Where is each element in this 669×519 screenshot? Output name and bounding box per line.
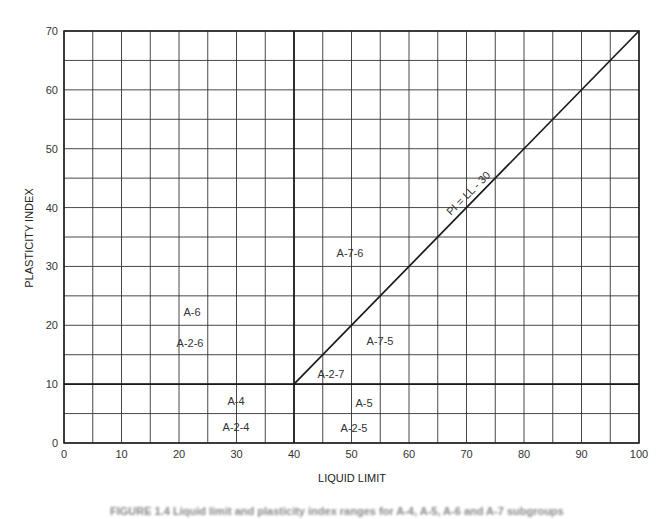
x-tick-label: 70: [460, 448, 472, 460]
y-tick-label: 30: [46, 260, 58, 272]
region-label-a-2-6: A-2-6: [177, 337, 204, 349]
grid-lines: [64, 31, 639, 443]
y-tick-label: 50: [46, 143, 58, 155]
y-tick-label: 20: [46, 319, 58, 331]
x-tick-label: 10: [115, 448, 127, 460]
x-tick-label: 30: [230, 448, 242, 460]
region-label-a-2-7: A-2-7: [318, 368, 345, 380]
region-label-a-7-6: A-7-6: [337, 247, 364, 259]
figure-caption: FIGURE 1.4 Liquid limit and plasticity i…: [110, 505, 669, 519]
y-tick-label: 10: [46, 378, 58, 390]
x-axis-title: LIQUID LIMIT: [318, 472, 386, 484]
x-tick-label: 100: [630, 448, 648, 460]
x-tick-label: 90: [575, 448, 587, 460]
region-label-a-5: A-5: [355, 397, 372, 409]
region-label-a-6: A-6: [183, 306, 200, 318]
region-label-a-2-5: A-2-5: [341, 422, 368, 434]
x-tick-label: 60: [403, 448, 415, 460]
x-tick-label: 20: [173, 448, 185, 460]
x-tick-label: 0: [61, 448, 67, 460]
y-axis-title: PLASTICITY INDEX: [23, 188, 35, 288]
y-tick-label: 60: [46, 84, 58, 96]
region-label-a-4: A-4: [227, 395, 244, 407]
x-tick-label: 40: [288, 448, 300, 460]
y-tick-label: 0: [52, 437, 58, 449]
x-tick-label: 50: [345, 448, 357, 460]
region-label-a-2-4: A-2-4: [223, 421, 250, 433]
y-tick-label: 40: [46, 202, 58, 214]
y-tick-labels: 010203040506070: [46, 25, 58, 449]
y-tick-label: 70: [46, 25, 58, 37]
region-label-a-7-5: A-7-5: [367, 335, 394, 347]
line-label-pi-ll-30: PI = LL - 30: [444, 169, 493, 218]
x-tick-labels: 0102030405060708090100: [61, 448, 648, 460]
x-tick-label: 80: [518, 448, 530, 460]
